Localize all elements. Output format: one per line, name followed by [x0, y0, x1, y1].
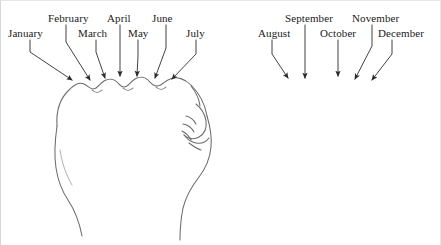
left-fist-drawing	[55, 77, 211, 240]
leader-line-august	[272, 40, 288, 78]
month-label-february: February	[48, 12, 89, 24]
month-label-january: January	[8, 27, 43, 39]
month-label-april: April	[107, 12, 131, 24]
leader-line-december	[372, 40, 392, 80]
leader-line-november	[355, 25, 372, 79]
month-label-december: December	[378, 27, 424, 39]
month-label-june: June	[152, 12, 173, 24]
leader-line-june	[155, 25, 166, 78]
month-label-september: September	[285, 12, 333, 24]
leader-line-july	[172, 40, 196, 79]
leader-line-may	[137, 40, 138, 76]
leader-line-january	[30, 40, 72, 80]
leader-line-march	[96, 40, 105, 78]
month-label-august: August	[258, 27, 290, 39]
month-label-october: October	[320, 27, 356, 39]
knuckle-month-mnemonic-figure: JanuaryFebruaryMarchAprilMayJuneJulyAugu…	[0, 0, 441, 245]
month-label-july: July	[186, 27, 205, 39]
hands-illustration	[0, 0, 441, 245]
month-label-november: November	[352, 12, 399, 24]
month-label-may: May	[128, 27, 148, 39]
month-label-march: March	[78, 27, 107, 39]
